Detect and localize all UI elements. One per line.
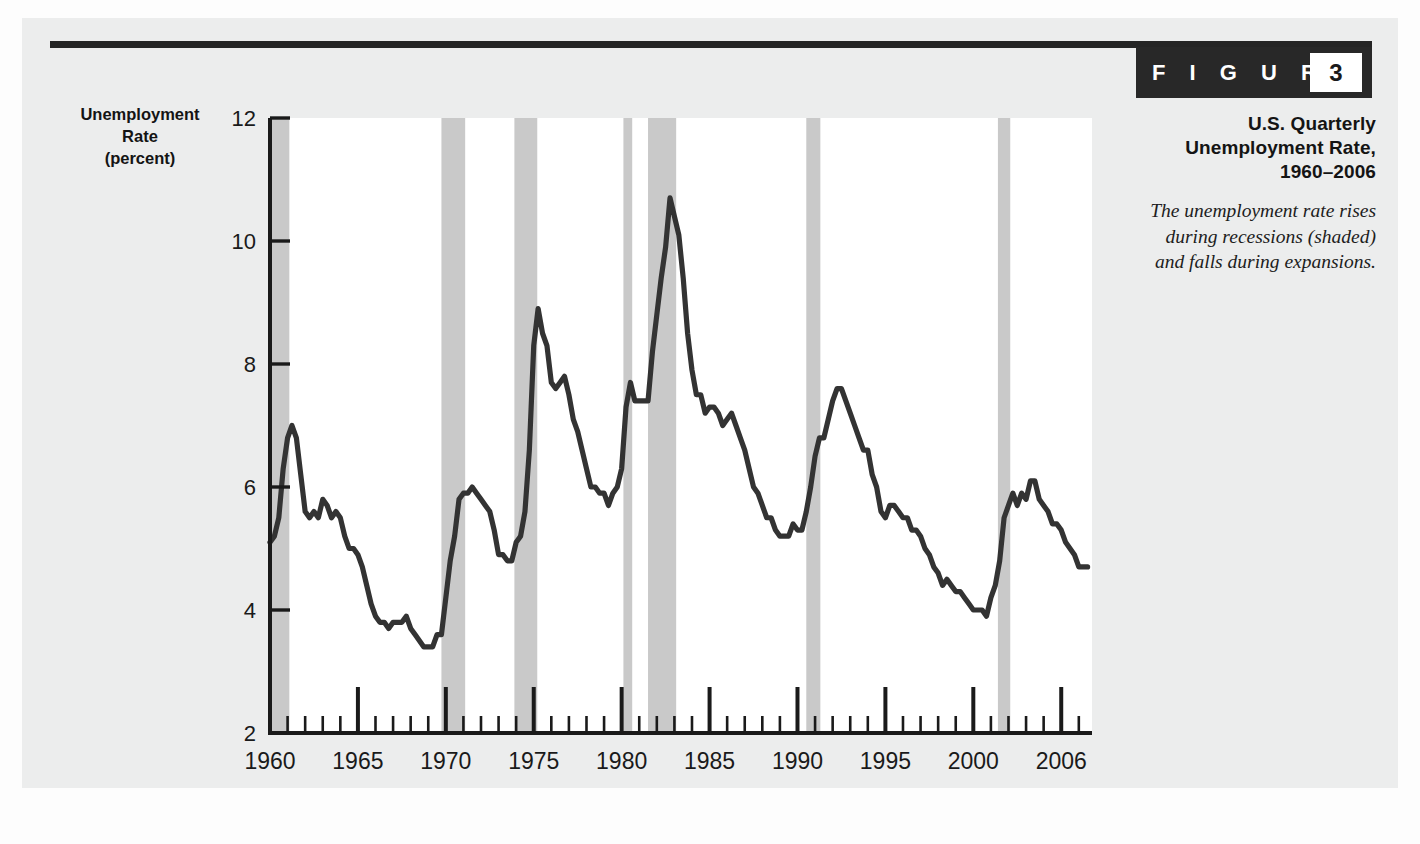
recession-band <box>806 118 820 733</box>
y-tick-label: 12 <box>232 106 256 131</box>
recession-band <box>441 118 465 733</box>
plot-background <box>270 118 1092 733</box>
x-tick-label: 2006 <box>1036 748 1087 774</box>
recession-band <box>514 118 537 733</box>
x-tick-label: 1975 <box>508 748 559 774</box>
unemployment-line-chart: 24681012 1960196519701975198019851990199… <box>0 0 1420 844</box>
figure-root: F I G U R E 3 U.S. Quarterly Unemploymen… <box>0 0 1420 844</box>
x-tick-label: 1970 <box>420 748 471 774</box>
x-tick-label: 1960 <box>244 748 295 774</box>
x-tick-label: 1985 <box>684 748 735 774</box>
x-tick-label: 1965 <box>332 748 383 774</box>
y-tick-label: 8 <box>244 352 256 377</box>
y-tick-label: 4 <box>244 598 256 623</box>
y-tick-label: 10 <box>232 229 256 254</box>
recession-band <box>270 118 289 733</box>
x-tick-label: 1995 <box>860 748 911 774</box>
y-tick-label: 2 <box>244 721 256 746</box>
y-tick-label: 6 <box>244 475 256 500</box>
recession-band <box>998 118 1010 733</box>
x-tick-label: 1980 <box>596 748 647 774</box>
x-tick-label: 2000 <box>948 748 999 774</box>
x-tick-label: 1990 <box>772 748 823 774</box>
